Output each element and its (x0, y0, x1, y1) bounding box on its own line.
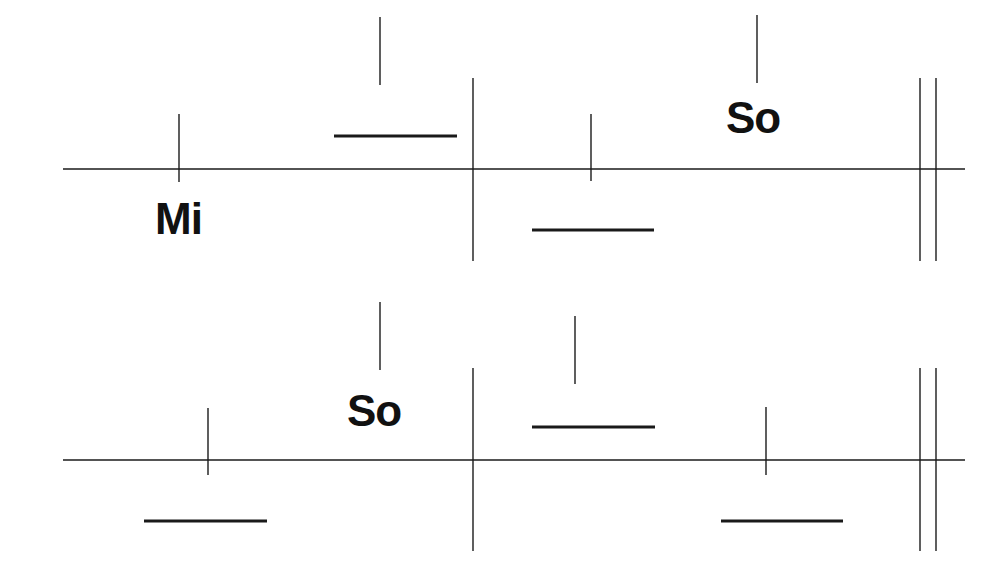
solfege-label: So (347, 389, 401, 433)
solfege-label: So (726, 96, 780, 140)
staff-diagram (0, 0, 994, 578)
staff-row-2 (63, 302, 965, 551)
solfege-label: Mi (155, 197, 202, 241)
